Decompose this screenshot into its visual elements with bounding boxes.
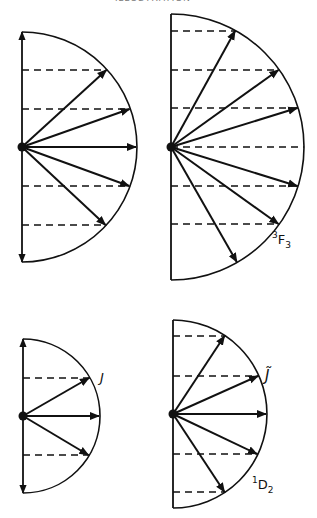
origin-dot (19, 412, 28, 421)
label-3F3: 3F3 (272, 230, 291, 250)
angular-momentum-diagram (0, 0, 317, 518)
label-1D2: 1D2 (252, 475, 273, 495)
vector-arrow (23, 378, 89, 416)
vector-arrow (22, 109, 130, 147)
origin-dot (18, 143, 27, 152)
vector-arrow (23, 416, 88, 455)
origin-dot (169, 410, 178, 419)
label-J-tilde: J̃ (265, 367, 269, 385)
label-J: J (100, 370, 104, 385)
vector-arrow (22, 147, 129, 186)
origin-dot (167, 143, 176, 152)
